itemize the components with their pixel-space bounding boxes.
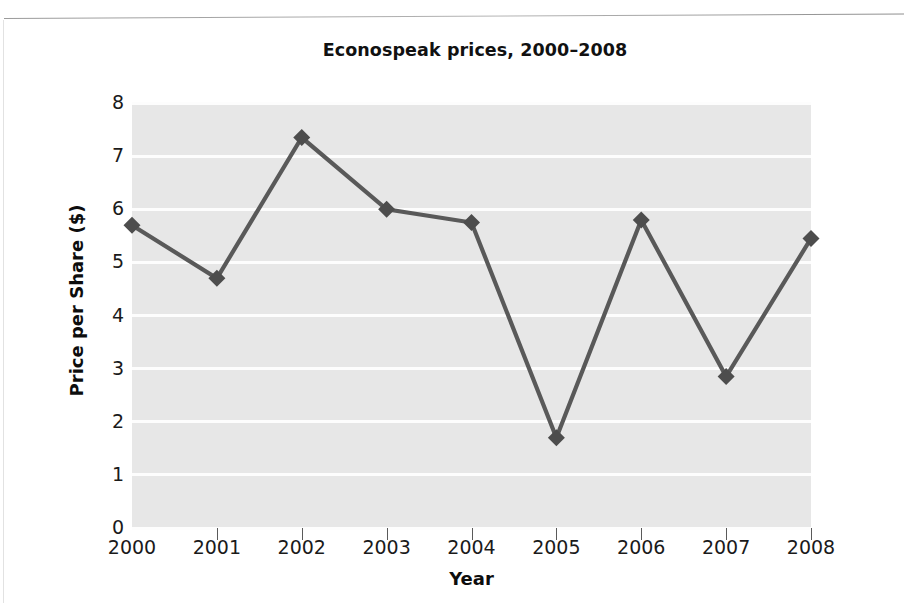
- y-axis-tick-label: 5: [98, 252, 124, 271]
- data-point-marker: [463, 214, 480, 231]
- x-axis-tick-label: 2007: [691, 536, 761, 558]
- y-axis-tick-label: 2: [98, 412, 124, 431]
- x-axis-tick-label: 2004: [437, 536, 507, 558]
- y-axis-tick-label: 7: [98, 146, 124, 165]
- x-axis-tick-label: 2008: [776, 536, 846, 558]
- x-axis-title: Year: [132, 568, 811, 589]
- x-axis-tick-label: 2000: [97, 536, 167, 558]
- x-axis-tick-label: 2006: [606, 536, 676, 558]
- x-axis-tick-label: 2003: [352, 536, 422, 558]
- series-line-chart: [132, 103, 811, 528]
- figure-page: Econospeak prices, 2000–2008 876543210 P…: [0, 0, 904, 603]
- data-point-marker: [548, 429, 565, 446]
- x-axis-tick-label: 2002: [267, 536, 337, 558]
- y-axis-tick-label: 1: [98, 465, 124, 484]
- page-rule-top: [4, 14, 904, 19]
- y-axis-tick-label: 6: [98, 199, 124, 218]
- x-axis-tick-label: 2005: [521, 536, 591, 558]
- y-axis-title: Price per Share ($): [66, 191, 87, 411]
- y-axis-tick-label: 4: [98, 306, 124, 325]
- series-markers: [124, 129, 820, 446]
- series-polyline: [132, 138, 811, 438]
- x-axis-tick-label: 2001: [182, 536, 252, 558]
- plot-area: [132, 103, 811, 528]
- y-axis-tick-label: 0: [98, 518, 124, 537]
- y-axis-tick-label: 3: [98, 359, 124, 378]
- y-axis-tick-label: 8: [98, 93, 124, 112]
- data-point-marker: [633, 211, 650, 228]
- chart-title: Econospeak prices, 2000–2008: [0, 40, 904, 60]
- page-rule-left: [3, 20, 4, 603]
